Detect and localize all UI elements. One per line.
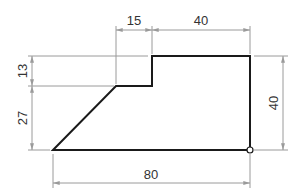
- technical-drawing: 15 40 13 27 40 80: [0, 0, 301, 196]
- dim-text-15: 15: [127, 13, 141, 28]
- dimension-lines: [32, 30, 283, 183]
- origin-circle-icon: [247, 147, 253, 153]
- dim-text-40-top: 40: [194, 13, 208, 28]
- dim-text-40-right: 40: [266, 96, 281, 110]
- dim-text-80: 80: [144, 167, 158, 182]
- profile-outline: [53, 56, 250, 150]
- dim-text-27: 27: [15, 111, 30, 125]
- dim-text-13: 13: [15, 64, 30, 78]
